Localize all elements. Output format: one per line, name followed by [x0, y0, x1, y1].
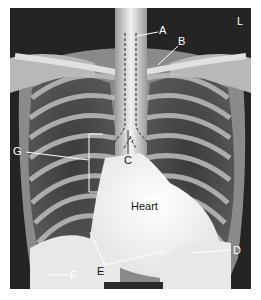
label-E: E [97, 265, 104, 277]
label-A: A [159, 24, 166, 36]
label-D: D [233, 244, 241, 256]
label-G: G [13, 145, 22, 157]
label-C: C [124, 154, 132, 166]
scale-bar [104, 282, 163, 289]
label-F: F [70, 269, 77, 281]
chest-xray-image: L A B C G Heart E D F [10, 8, 251, 289]
label-orientation-L: L [237, 15, 243, 27]
label-B: B [178, 35, 185, 47]
label-heart: Heart [131, 200, 158, 212]
